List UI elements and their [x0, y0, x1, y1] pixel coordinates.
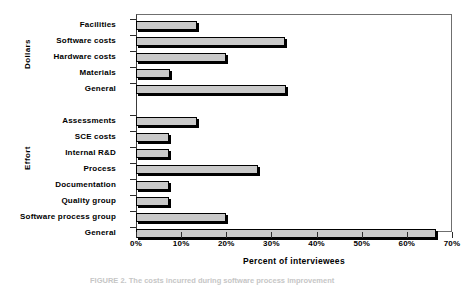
- bar: [136, 165, 258, 174]
- category-label: General: [0, 228, 116, 238]
- bar: [136, 149, 169, 158]
- figure-caption: FIGURE 2. The costs incurred during soft…: [90, 276, 468, 285]
- x-axis-tick-label: 30%: [251, 239, 291, 248]
- x-axis-tick-label: 50%: [342, 239, 382, 248]
- bar-row: SCE costs: [136, 132, 452, 145]
- category-label: Documentation: [0, 180, 116, 190]
- bar-row: Software process group: [136, 212, 452, 225]
- bar: [136, 53, 226, 62]
- category-label: Process: [0, 164, 116, 174]
- category-label: Materials: [0, 68, 116, 78]
- category-label: Quality group: [0, 196, 116, 206]
- category-label: Internal R&D: [0, 148, 116, 158]
- y-axis-tick: [130, 147, 136, 148]
- bar: [136, 37, 285, 46]
- bar-row: Assessments: [136, 116, 452, 129]
- bar-row: Documentation: [136, 180, 452, 193]
- bar-row: Internal R&D: [136, 148, 452, 161]
- y-axis-tick: [130, 51, 136, 52]
- y-axis-tick: [130, 195, 136, 196]
- bar-row: Quality group: [136, 196, 452, 209]
- x-axis-tick-labels: 0%10%20%30%40%50%60%70%: [0, 239, 468, 251]
- category-label: Software process group: [0, 212, 116, 222]
- x-axis-tick: [407, 232, 408, 238]
- x-axis-ticks: [136, 232, 452, 238]
- y-axis-tick: [130, 163, 136, 164]
- x-axis-tick: [452, 232, 453, 238]
- bar-rows-container: FacilitiesSoftware costsHardware costsMa…: [136, 14, 452, 232]
- y-axis-tick: [130, 179, 136, 180]
- y-axis-tick: [130, 83, 136, 84]
- bar-row: General: [136, 84, 452, 97]
- x-axis-tick: [362, 232, 363, 238]
- figure-bar-chart: Dollars Effort FacilitiesSoftware costsH…: [0, 0, 468, 286]
- bar: [136, 197, 169, 206]
- bar: [136, 85, 286, 94]
- bar: [136, 21, 197, 30]
- bar: [136, 117, 197, 126]
- category-label: Software costs: [0, 36, 116, 46]
- category-label: Hardware costs: [0, 52, 116, 62]
- y-axis-tick: [130, 131, 136, 132]
- x-axis-title: Percent of interviewees: [136, 256, 452, 266]
- x-axis-tick-label: 10%: [161, 239, 201, 248]
- x-axis-tick: [226, 232, 227, 238]
- bar: [136, 213, 226, 222]
- category-label: SCE costs: [0, 132, 116, 142]
- category-label: General: [0, 84, 116, 94]
- x-axis-tick-label: 20%: [206, 239, 246, 248]
- y-axis-tick: [130, 19, 136, 20]
- y-axis-tick: [130, 67, 136, 68]
- category-label: Facilities: [0, 20, 116, 30]
- bar-row: Hardware costs: [136, 52, 452, 65]
- bar-row: Software costs: [136, 36, 452, 49]
- y-axis-tick: [130, 211, 136, 212]
- x-axis-tick: [136, 232, 137, 238]
- bar-row: Materials: [136, 68, 452, 81]
- x-axis-tick: [271, 232, 272, 238]
- x-axis-tick-label: 60%: [387, 239, 427, 248]
- y-axis-tick: [130, 227, 136, 228]
- bar-row: Process: [136, 164, 452, 177]
- y-axis-tick: [130, 35, 136, 36]
- x-axis-tick: [317, 232, 318, 238]
- category-label: Assessments: [0, 116, 116, 126]
- x-axis-tick: [181, 232, 182, 238]
- y-axis-tick: [130, 115, 136, 116]
- x-axis-tick-label: 0%: [116, 239, 156, 248]
- x-axis-tick-label: 40%: [297, 239, 337, 248]
- bar: [136, 181, 169, 190]
- bar: [136, 133, 169, 142]
- bar-row: Facilities: [136, 20, 452, 33]
- bar: [136, 69, 170, 78]
- x-axis-tick-label: 70%: [432, 239, 468, 248]
